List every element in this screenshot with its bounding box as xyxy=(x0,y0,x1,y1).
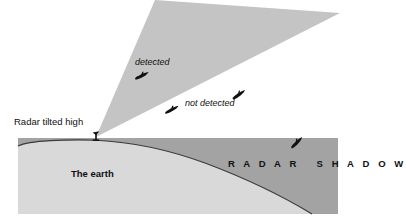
not-detected-label: not detected xyxy=(185,99,235,108)
radar-tilted-high-label: Radar tilted high xyxy=(14,117,83,127)
aircraft-not-detected-left-icon xyxy=(164,104,180,114)
the-earth-label: The earth xyxy=(71,169,114,179)
radar-shadow-label: R A D A R S H A D O W xyxy=(228,159,406,169)
detected-label: detected xyxy=(135,58,170,67)
radar-beam-cone xyxy=(96,0,340,137)
